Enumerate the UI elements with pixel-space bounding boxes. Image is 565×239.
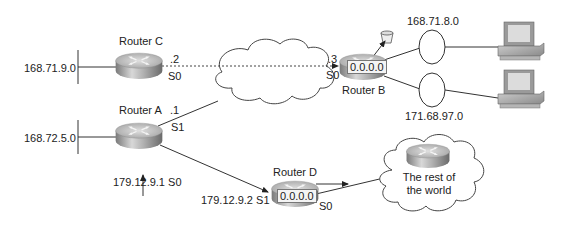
wan-cloud [216, 39, 334, 104]
router-d-s1-label: 179.12.9.2 S1 [201, 194, 270, 206]
router-c-lan-segment [78, 50, 116, 84]
link-b-to-lan2 [384, 76, 420, 89]
link-b-to-lan1 [384, 48, 420, 60]
router-b-label: Router B [342, 84, 385, 96]
pc-1-icon [498, 22, 544, 60]
lan-171-68-97-0 [419, 73, 445, 107]
router-a-s1-addr: .1 [170, 104, 179, 116]
router-c-icon [116, 53, 163, 79]
lan-2-label: 171.68.97.0 [405, 110, 463, 122]
lan-1-label: 168.71.8.0 [407, 15, 459, 27]
router-a-s0-label: 179.12.9.1 S0 [113, 176, 182, 188]
world-router-icon [407, 144, 450, 168]
link-a-to-cloud [158, 101, 218, 126]
router-a-icon [116, 123, 163, 149]
world-cloud-text-2: the world [389, 184, 469, 197]
diagram-canvas [0, 0, 565, 239]
router-a-network: 168.72.5.0 [24, 132, 76, 144]
network-diagram: Router C 168.71.9.0 .2 S0 Router A 168.7… [0, 0, 565, 239]
pc-2-icon [498, 70, 544, 108]
router-c-label: Router C [119, 35, 163, 47]
router-d-s0: S0 [319, 200, 332, 212]
lan-168-71-8-0 [419, 30, 445, 64]
router-a-label: Router A [119, 104, 162, 116]
router-d-address: 0.0.0.0 [277, 189, 317, 203]
router-b-address: 0.0.0.0 [347, 60, 387, 74]
router-c-iface: S0 [168, 70, 181, 82]
router-c-iface-addr: .2 [170, 53, 179, 65]
router-b-iface-addr: .3 [328, 53, 337, 65]
router-a-lan-segment [78, 120, 116, 154]
router-c-network: 168.71.9.0 [24, 62, 76, 74]
router-a-s1: S1 [171, 121, 184, 133]
router-b-iface: S0 [326, 69, 339, 81]
bucket-icon [372, 31, 393, 58]
router-d-label: Router D [273, 166, 317, 178]
world-cloud-text-1: The rest of [389, 171, 469, 184]
